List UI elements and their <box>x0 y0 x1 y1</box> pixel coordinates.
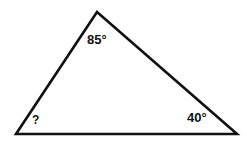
angle-label-apex: 85° <box>87 33 107 46</box>
angle-label-bottom-right: 40° <box>187 111 207 124</box>
angle-label-bottom-left-unknown: ? <box>32 114 39 126</box>
geometry-figure: 85° 40° ? <box>0 0 247 143</box>
